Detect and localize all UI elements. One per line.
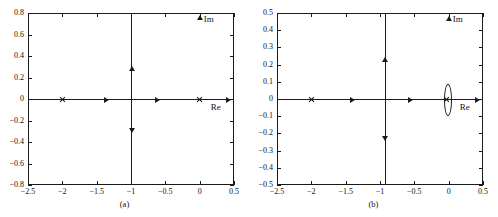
real-axis-label-a: Re [211,103,221,112]
y-tick [479,82,483,83]
y-tick-label: 0.8 [0,9,24,17]
x-tick [97,181,98,185]
x-tick [165,181,166,185]
pole-marker [443,96,450,103]
x-tick-label: 0.5 [220,188,248,196]
x-tick-label: −2.5 [263,188,291,196]
imaginary-axis-label-a: Im [204,15,214,24]
y-tick-label: −0.4 [0,138,24,146]
x-tick-label: −1 [117,188,145,196]
y-tick [277,65,281,66]
y-tick-label: −0.4 [249,164,273,172]
y-tick [28,78,32,79]
y-tick [230,35,234,36]
y-tick-label: 0.2 [249,61,273,69]
y-tick [277,30,281,31]
y-tick-label: 0.4 [249,26,273,34]
direction-arrow-down [129,128,135,133]
y-tick-label: −0.1 [249,112,273,120]
direction-arrow-up [382,57,388,62]
y-tick [479,65,483,66]
y-tick [479,116,483,117]
direction-arrow-right [350,97,355,103]
y-tick [277,47,281,48]
x-tick [62,181,63,185]
y-tick-label: 0 [249,95,273,103]
y-tick [277,168,281,169]
x-tick [234,13,235,17]
y-tick-label: 0.1 [249,78,273,86]
x-tick [97,13,98,17]
x-tick [414,13,415,17]
x-tick-label: −2 [48,188,76,196]
y-tick-label: −0.2 [249,129,273,137]
y-tick [28,142,32,143]
x-tick-label: 0.5 [469,188,497,196]
direction-arrow-right [155,97,160,103]
x-tick-label: −0.5 [400,188,428,196]
x-tick [311,181,312,185]
x-tick [380,13,381,17]
x-tick [62,13,63,17]
y-tick [277,116,281,117]
direction-arrow-up [197,15,203,20]
x-tick [346,13,347,17]
y-tick [28,164,32,165]
x-tick [165,13,166,17]
direction-arrow-down [382,136,388,141]
y-tick-label: −0.6 [0,160,24,168]
x-tick-label: −1.5 [332,188,360,196]
y-tick-label: 0.2 [0,74,24,82]
y-tick [230,78,234,79]
direction-arrow-right [104,97,109,103]
x-tick-label: −2.5 [14,188,42,196]
x-tick [311,13,312,17]
x-tick [483,181,484,185]
y-tick [230,185,234,186]
x-tick [380,181,381,185]
x-tick-label: 0 [186,188,214,196]
x-tick [346,181,347,185]
direction-arrow-up [446,16,452,21]
imaginary-axis-label-b: Im [453,15,463,24]
vertical-locus-branch [131,13,132,185]
y-tick [230,56,234,57]
direction-arrow-right [475,97,480,103]
pole-marker [308,96,315,103]
real-axis-label-b: Re [460,103,470,112]
pole-marker [196,96,203,103]
panel-a: 0.80.60.40.20−0.2−0.4−0.6−0.8 −2.5−2−1.5… [0,0,249,217]
y-tick-label: −0.3 [249,147,273,155]
y-tick [230,164,234,165]
x-tick [277,181,278,185]
x-tick [28,13,29,17]
x-tick-label: −2 [297,188,325,196]
y-tick-label: 0.6 [0,31,24,39]
caption-b: (b) [249,200,498,209]
y-tick-label: 0 [0,95,24,103]
y-tick [277,185,281,186]
y-tick [230,121,234,122]
y-tick-label: −0.2 [0,117,24,125]
y-tick [479,168,483,169]
y-tick [277,151,281,152]
x-tick [449,181,450,185]
root-pole-zero-figure: 0.80.60.40.20−0.2−0.4−0.6−0.8 −2.5−2−1.5… [0,0,498,217]
vertical-locus-branch [385,13,386,185]
y-tick [479,30,483,31]
y-tick [479,185,483,186]
y-tick [479,133,483,134]
direction-arrow-up [129,66,135,71]
y-tick [479,151,483,152]
y-tick [28,121,32,122]
y-tick [277,82,281,83]
y-tick-label: 0.5 [249,9,273,17]
y-tick [28,56,32,57]
y-tick-label: 0.4 [0,52,24,60]
x-tick [200,181,201,185]
x-tick [234,181,235,185]
caption-a: (a) [0,200,249,209]
x-tick [277,13,278,17]
x-tick-label: −0.5 [151,188,179,196]
y-tick-label: 0.3 [249,43,273,51]
